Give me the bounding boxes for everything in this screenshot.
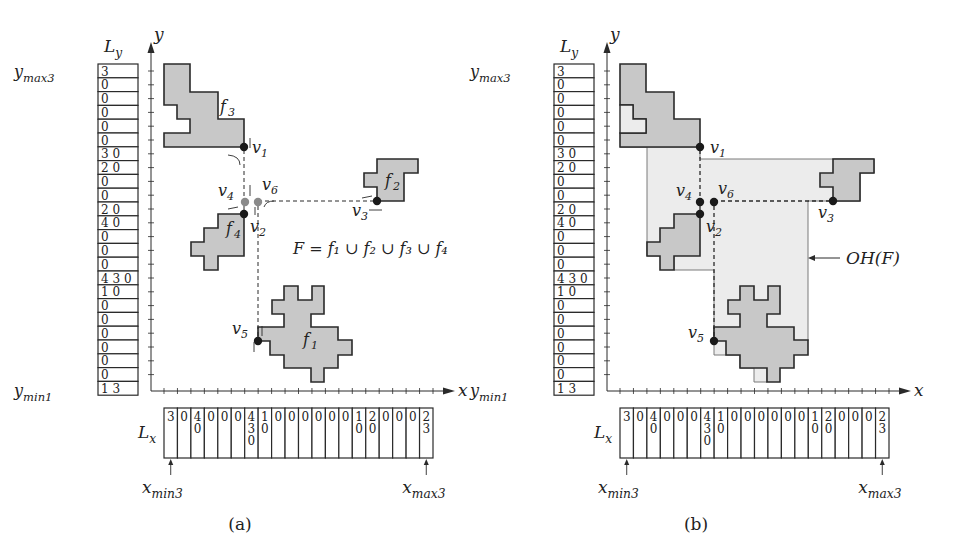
xmax-arrow-icon	[880, 459, 885, 465]
ly-cell-value: 0	[101, 230, 109, 244]
ly-cell-value: 3	[101, 65, 109, 79]
ly-cell-value: 3 0	[101, 147, 120, 161]
vertex-label-v6-sub: 6	[727, 188, 734, 201]
ly-cell-value: 0	[101, 368, 109, 382]
vertex-v5	[710, 337, 718, 345]
vertex-label-v2-sub: 2	[714, 226, 722, 239]
vertex-label-v5-sub: 5	[697, 332, 704, 345]
vertex-label-v3-sub: 3	[827, 212, 834, 225]
lx-cell-value: 0	[396, 410, 404, 424]
lx-label-main: L	[137, 422, 149, 442]
vertex-v3	[373, 197, 381, 205]
ymin-label-sub: min1	[23, 390, 52, 404]
xmin-arrow-icon	[624, 459, 629, 465]
ly-cell-value: 1 3	[101, 382, 120, 396]
lx-cell-value: 0	[798, 410, 806, 424]
lx-cell-value: 0	[221, 410, 229, 424]
direction-arrow-icon	[362, 196, 372, 198]
lx-cell-value: 0	[248, 434, 256, 448]
xmin-label: xmin3	[142, 477, 183, 501]
ymax-label: ymax3	[13, 62, 55, 85]
vertex-v4	[241, 198, 249, 206]
vertex-label-v6: v	[262, 175, 271, 194]
panel-b: 3000003 02 0002 04 00004 3 01 00000001 3…	[469, 24, 924, 534]
x-axis-label: x	[458, 380, 468, 400]
lx-cell-value: 0	[771, 410, 779, 424]
vertex-label-v2-sub: 2	[258, 226, 266, 239]
lx-cell-value: 0	[369, 422, 377, 436]
vertex-v6	[710, 198, 718, 206]
vertex-label-v4-sub: 4	[226, 190, 234, 203]
ly-cell-value: 0	[557, 189, 565, 203]
vertex-label-v3-sub: 3	[361, 210, 368, 223]
lx-cell-value: 0	[207, 410, 215, 424]
lx-list: 304000043010000000102000023	[164, 408, 433, 458]
ly-cell-value: 0	[557, 313, 565, 327]
ly-cell-value: 0	[557, 134, 565, 148]
y-axis-label: y	[609, 24, 620, 44]
lx-cell-value: 0	[288, 410, 296, 424]
face-label-f3-sub: 3	[228, 106, 235, 119]
xmax-label-sub: max3	[412, 487, 446, 501]
ly-cell-value: 2 0	[557, 161, 576, 175]
vertex-label-v1-sub: 1	[261, 147, 268, 160]
lx-cell-value: 0	[757, 410, 765, 424]
lx-label-sub: x	[605, 432, 612, 446]
vertex-label-v2: v	[250, 217, 259, 236]
direction-arrow-icon	[228, 207, 238, 209]
ly-cell-value: 0	[101, 258, 109, 272]
ly-cell-value: 1 0	[557, 285, 576, 299]
vertex-label-v2: v	[706, 217, 715, 236]
ly-cell-value: 3 0	[557, 147, 576, 161]
face-label-f1-sub: 1	[311, 339, 318, 352]
ly-label-sub: y	[114, 46, 123, 60]
vertex-v3	[829, 197, 837, 205]
xmin-label-main: x	[142, 477, 152, 497]
lx-cell-value: 0	[784, 410, 792, 424]
lx-cell-value: 0	[409, 410, 417, 424]
lx-cell-value: 0	[825, 422, 833, 436]
ly-cell-value: 0	[101, 327, 109, 341]
ymax-label-sub: max3	[23, 71, 55, 85]
vertex-v1	[240, 143, 248, 151]
lx-cell-value: 0	[301, 410, 309, 424]
ly-cell-value: 0	[557, 175, 565, 189]
ly-list: 3000003 02 0002 04 00004 3 01 00000001 3	[554, 64, 594, 396]
vertex-label-v5-sub: 5	[241, 328, 248, 341]
ly-cell-value: 0	[557, 327, 565, 341]
lx-cell-value: 0	[180, 410, 188, 424]
vertex-label-v4-sub: 4	[684, 190, 692, 203]
x-axis-arrow-icon	[899, 388, 911, 395]
vertex-label-v6-sub: 6	[271, 184, 278, 197]
face-label-f2-sub: 2	[392, 180, 400, 193]
lx-cell-value: 0	[852, 410, 860, 424]
ly-cell-value: 2 0	[557, 203, 576, 217]
ly-cell-value: 0	[101, 175, 109, 189]
ly-cell-value: 1 0	[101, 285, 120, 299]
ly-cell-value: 0	[557, 106, 565, 120]
y-axis-label: y	[153, 24, 164, 44]
lx-cell-value: 0	[275, 410, 283, 424]
lx-label-main: L	[593, 422, 605, 442]
hull-label: OH(F)	[846, 248, 900, 268]
ly-cell-value: 0	[101, 106, 109, 120]
ymin-label: ymin1	[13, 381, 52, 404]
lx-cell-value: 3	[623, 410, 631, 424]
xmin-label-main: x	[598, 477, 608, 497]
ly-cell-value: 4 3 0	[557, 272, 588, 286]
lx-cell-value: 0	[731, 410, 739, 424]
vertex-v1	[696, 143, 704, 151]
hull-arrow-icon	[808, 255, 815, 261]
vertex-v4	[696, 198, 704, 206]
ymax-label-sub: max3	[479, 71, 511, 85]
ymin-label: ymin1	[469, 381, 508, 404]
lx-cell-value: 0	[865, 410, 873, 424]
ly-cell-value: 0	[557, 230, 565, 244]
lx-cell-value: 0	[690, 410, 698, 424]
lx-cell-value: 0	[194, 422, 202, 436]
lx-cell-value: 0	[382, 410, 390, 424]
vertex-label-v4: v	[218, 181, 227, 200]
vertex-label-v3: v	[352, 201, 361, 220]
lx-cell-value: 0	[811, 422, 819, 436]
vertex-label-v5: v	[688, 323, 697, 342]
